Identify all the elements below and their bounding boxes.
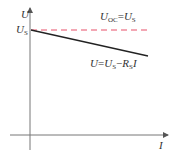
load-line-label: U=US−RSI bbox=[90, 58, 137, 71]
y-axis-label: U bbox=[21, 9, 29, 20]
x-axis-label: I bbox=[159, 140, 163, 151]
open-circuit-label: UOC=US bbox=[100, 11, 136, 24]
load-line bbox=[31, 30, 148, 56]
us-intercept-label: US bbox=[16, 24, 28, 37]
